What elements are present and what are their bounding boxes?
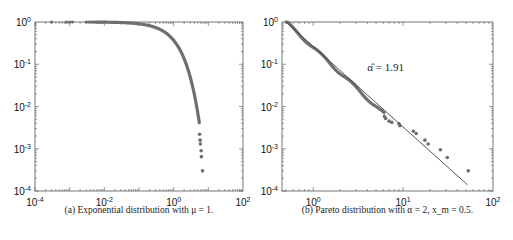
data-point — [65, 20, 68, 23]
data-point — [445, 156, 449, 160]
data-point — [199, 142, 203, 146]
y-tick-label: 10-4 — [261, 185, 278, 197]
y-tick-label: 10-2 — [14, 101, 31, 113]
axes-frame — [35, 22, 243, 191]
data-point — [390, 121, 394, 125]
y-tick-label: 10-3 — [261, 143, 278, 155]
data-point — [384, 117, 388, 121]
fit-line — [286, 22, 467, 185]
panel-pareto: 10010110210010-110-210-310-4(b) Pareto d… — [261, 16, 501, 216]
data-point — [95, 20, 98, 23]
y-tick-label: 10-2 — [261, 101, 278, 113]
y-tick-label: 100 — [16, 16, 31, 28]
data-point — [412, 129, 416, 133]
y-tick-label: 10-1 — [14, 58, 31, 70]
data-point — [200, 155, 204, 159]
data-point — [414, 132, 418, 136]
y-tick-label: 10-4 — [14, 185, 31, 197]
y-tick-label: 10-1 — [261, 58, 278, 70]
panel-caption: (a) Exponential distribution with μ = 1. — [65, 205, 214, 216]
data-point — [198, 132, 202, 136]
y-tick-label: 10-3 — [14, 143, 31, 155]
data-point — [466, 169, 470, 173]
data-point — [423, 138, 427, 142]
plot-area — [50, 20, 204, 172]
fit-annotation: α̂ = 1.91 — [367, 61, 404, 73]
x-tick-label: 102 — [235, 196, 250, 208]
data-curve — [97, 22, 199, 123]
data-point — [426, 142, 430, 146]
x-tick-label: 10-4 — [26, 196, 43, 208]
figure: 10-410-210010210010-110-210-310-4(a) Exp… — [0, 0, 513, 240]
data-point — [199, 149, 203, 153]
x-tick-label: 102 — [485, 196, 500, 208]
data-point — [71, 20, 74, 23]
data-point — [50, 20, 53, 23]
data-point — [68, 20, 71, 23]
data-point — [439, 148, 443, 152]
panel-exponential: 10-410-210010210010-110-210-310-4(a) Exp… — [14, 16, 251, 216]
data-point — [198, 138, 202, 142]
y-tick-label: 100 — [263, 16, 278, 28]
panel-caption: (b) Pareto distribution with α = 2, x_m … — [302, 205, 473, 216]
data-point — [201, 169, 205, 173]
plot-area — [286, 22, 470, 185]
